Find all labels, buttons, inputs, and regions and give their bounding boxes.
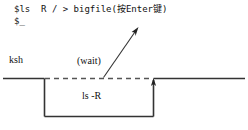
label-wait-state: (wait) [77, 55, 101, 66]
label-child-command: ls -R [82, 90, 101, 101]
figure-container: $ls R / > bigfile(按Enter键) $_ ksh (wait)… [0, 0, 248, 130]
wait-annotation-leader-line [104, 31, 137, 78]
label-ksh-process: ksh [9, 54, 23, 65]
process-timeline-graphic [0, 0, 248, 130]
